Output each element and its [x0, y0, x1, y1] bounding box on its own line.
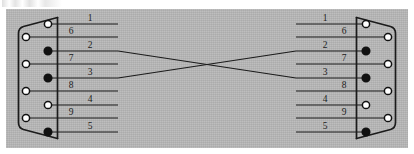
right-pin-label-9: 9: [342, 107, 347, 117]
right-pin-2: [362, 47, 370, 55]
left-pin-1: [44, 20, 51, 27]
right-pin-label-4: 4: [323, 94, 328, 104]
right-pin-3: [362, 74, 370, 82]
left-pin-4: [44, 101, 51, 108]
left-pin-label-4: 4: [88, 94, 93, 104]
left-pin-8: [22, 87, 29, 94]
right-pin-6: [384, 33, 391, 40]
left-pin-7: [22, 60, 29, 67]
right-pin-label-8: 8: [342, 80, 347, 90]
left-pin-label-8: 8: [69, 80, 74, 90]
left-pin-labels: 1 6 2 7 3 8 4 9 5: [69, 13, 93, 131]
right-pin-label-3: 3: [323, 67, 328, 77]
right-pin-4: [362, 101, 369, 108]
wiring-diagram-svg: 1 6 2 7 3 8 4 9 5 1 6 2 7 3 8 4 9 5: [0, 0, 414, 154]
left-pin-9: [22, 114, 29, 121]
right-pin-5: [362, 128, 370, 136]
right-pin-labels: 1 6 2 7 3 8 4 9 5: [323, 13, 347, 131]
left-pin-label-6: 6: [69, 26, 74, 36]
left-pin-6: [22, 33, 29, 40]
left-pin-label-9: 9: [69, 107, 74, 117]
left-pin-5: [44, 128, 52, 136]
crossover-wires: [118, 51, 296, 78]
right-pin-8: [384, 87, 391, 94]
left-pin-label-5: 5: [88, 121, 93, 131]
right-pin-1: [362, 20, 369, 27]
left-pin-label-3: 3: [88, 67, 93, 77]
left-pin-label-2: 2: [88, 40, 93, 50]
right-pin-label-2: 2: [323, 40, 328, 50]
right-pin-label-1: 1: [323, 13, 328, 23]
left-pin-label-7: 7: [69, 53, 74, 63]
right-pin-9: [384, 114, 391, 121]
right-pin-label-6: 6: [342, 26, 347, 36]
right-pin-label-5: 5: [323, 121, 328, 131]
right-pin-label-7: 7: [342, 53, 347, 63]
serial-cable-wiring-figure: 1 6 2 7 3 8 4 9 5 1 6 2 7 3 8 4 9 5: [0, 0, 414, 154]
right-pin-7: [384, 60, 391, 67]
left-pin-3: [44, 74, 52, 82]
left-pin-2: [44, 47, 52, 55]
left-pin-label-1: 1: [88, 13, 93, 23]
